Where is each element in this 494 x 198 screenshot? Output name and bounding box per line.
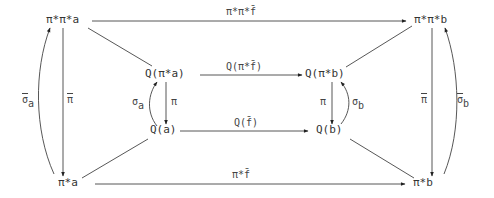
arrow-inner-right-sigma [341,82,349,124]
node-pi-pi-b: π*π*b [414,14,447,26]
node-Q-b: Q(b) [316,124,343,136]
label-right-sigma: σb [457,94,469,106]
label-inner-left-sigma: σa [132,96,144,108]
label-right-pi: π [421,94,427,106]
label-bottom: π*f̄ [232,169,250,181]
arrow-left-sigma [38,28,54,174]
edge-diag-top-left [88,28,152,66]
label-top: π*π*f̄ [226,6,256,18]
label-inner-right-sigma: σb [352,96,364,108]
edge-diag-bottom-right [350,139,414,178]
node-pi-b: π*b [413,177,433,189]
label-inner-left-pi: π [171,96,177,108]
label-left-sigma: σa [22,94,34,106]
node-Q-pi-a: Q(π*a) [145,68,185,80]
node-Q-pi-b: Q(π*b) [305,68,345,80]
arrow-inner-left-sigma [149,82,157,126]
label-inner-top: Q(π*f̄) [226,61,262,73]
node-pi-pi-a: π*π*a [46,14,79,26]
edge-diag-bottom-left [82,139,148,178]
edge-diag-top-right [346,26,412,67]
label-inner-right-pi: π [320,96,326,108]
label-left-pi: π [67,94,73,106]
node-pi-a: π*a [58,177,78,189]
arrow-right-sigma [444,28,457,174]
node-Q-a: Q(a) [150,124,177,136]
label-inner-bottom: Q(f̄) [234,117,258,129]
